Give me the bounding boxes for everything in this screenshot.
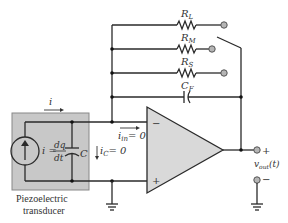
output-section: + vout(t) − <box>223 145 280 210</box>
svg-text:dq: dq <box>54 140 66 150</box>
svg-text:C: C <box>80 148 88 159</box>
svg-text:RS: RS <box>180 56 194 69</box>
svg-text:RL: RL <box>180 8 194 21</box>
terminal-rl[interactable] <box>221 22 227 28</box>
terminal-rm[interactable] <box>209 46 215 52</box>
current-ic-label: iC= 0 <box>95 145 127 160</box>
svg-text:−: − <box>262 174 270 185</box>
svg-text:vout(t): vout(t) <box>254 159 280 170</box>
ground-icon <box>251 183 263 210</box>
svg-text:+: + <box>262 145 270 156</box>
capacitor-cf: CF <box>112 80 241 103</box>
svg-text:iin= 0: iin= 0 <box>118 130 147 143</box>
noninverting-input-sign: + <box>152 175 160 186</box>
output-terminal-plus[interactable] <box>254 147 260 153</box>
svg-text:transducer: transducer <box>23 205 65 216</box>
junction-dot <box>239 148 243 152</box>
resistor-rl: RL <box>112 8 227 29</box>
junction-dot <box>239 95 243 99</box>
junction-dot <box>110 47 114 51</box>
current-iin-label: iin= 0 <box>118 126 147 143</box>
svg-text:iC= 0: iC= 0 <box>100 145 127 158</box>
junction-dot <box>70 120 74 124</box>
inverting-input-sign: − <box>152 118 160 129</box>
svg-text:RM: RM <box>180 32 197 45</box>
junction-dot <box>70 179 74 183</box>
ground-icon <box>106 181 118 210</box>
circuit-diagram: RL RM RS CF <box>0 0 288 223</box>
svg-text:CF: CF <box>181 80 195 93</box>
junction-dot <box>110 120 114 124</box>
svg-text:Piezoelectric: Piezoelectric <box>16 193 68 204</box>
selector-switch[interactable] <box>217 37 241 48</box>
resistor-rs: RS <box>112 56 227 77</box>
svg-text:dt: dt <box>54 153 64 163</box>
svg-text:i: i <box>49 96 52 107</box>
junction-dot <box>110 71 114 75</box>
terminal-rs[interactable] <box>221 70 227 76</box>
resistor-rm: RM <box>112 32 215 53</box>
piezoelectric-transducer: i = dq dt C Piezoelectric transducer <box>11 113 112 216</box>
output-terminal-minus[interactable] <box>254 177 260 183</box>
junction-dot <box>110 95 114 99</box>
current-i-label: i <box>44 96 64 112</box>
op-amp: − + <box>147 107 223 193</box>
